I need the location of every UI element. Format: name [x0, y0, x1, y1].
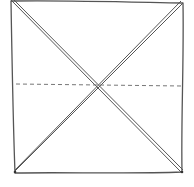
diagonal-fold-tr-bl — [14, 1, 183, 172]
corner-dot-br — [181, 171, 184, 174]
diagram-svg — [0, 0, 194, 187]
corner-dot-bl — [14, 171, 17, 174]
fold-diagram — [0, 0, 194, 187]
